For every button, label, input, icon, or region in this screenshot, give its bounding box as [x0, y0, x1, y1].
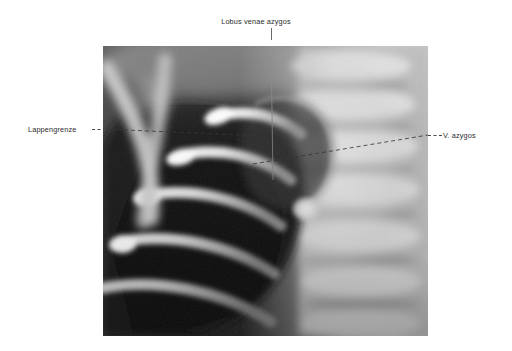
radiograph-figure: Lobus venae azygos Lappengrenze V. azygo…: [0, 0, 512, 351]
label-v-azygos: V. azygos: [443, 132, 476, 139]
label-lobus-venae-azygos: Lobus venae azygos: [0, 18, 512, 25]
label-lappengrenze: Lappengrenze: [28, 126, 76, 133]
radiograph-canvas: [103, 46, 428, 336]
leader-line-top: [271, 28, 272, 40]
leader-line-right: [428, 135, 442, 136]
chest-radiograph-image: [103, 46, 428, 336]
film-grain: [103, 46, 428, 336]
